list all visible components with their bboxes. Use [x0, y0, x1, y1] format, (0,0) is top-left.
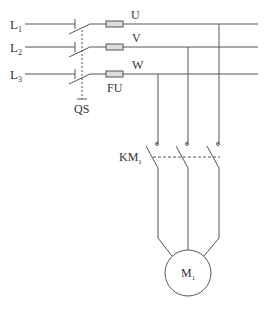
label-l1: L1 — [10, 17, 22, 34]
switch-l2-blade — [69, 47, 90, 57]
contact-dot-3 — [217, 143, 220, 146]
label-w: W — [132, 58, 144, 72]
label-km1: KM1 — [119, 150, 142, 166]
circuit-diagram: L1 L2 L3 U V W FU QS KM1 M1 — [0, 0, 266, 313]
contact-dot-1 — [156, 143, 159, 146]
label-m1: M1 — [181, 266, 196, 282]
fuse-l2 — [106, 44, 123, 50]
label-u: U — [131, 8, 140, 22]
switch-l1-blade — [69, 24, 90, 34]
label-qs: QS — [74, 102, 89, 116]
label-l2: L2 — [10, 40, 22, 57]
label-fu: FU — [107, 81, 123, 95]
motor-lead-3-bend — [204, 238, 219, 256]
contact-dot-2 — [186, 143, 189, 146]
contactor-blade-2 — [176, 146, 188, 168]
switch-l3-blade — [69, 74, 90, 84]
fuse-l3 — [106, 71, 123, 77]
label-v: V — [132, 31, 141, 45]
motor-lead-1-bend — [158, 238, 172, 256]
contactor-blade-1 — [146, 146, 158, 168]
label-l3: L3 — [10, 67, 22, 84]
fuse-l1 — [106, 21, 123, 27]
